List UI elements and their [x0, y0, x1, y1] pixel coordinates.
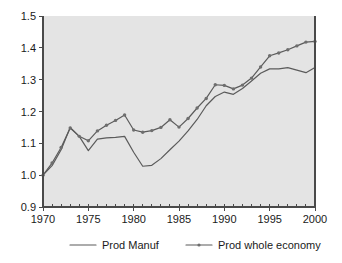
series-marker-1 — [214, 83, 217, 86]
series-marker-1 — [123, 113, 126, 116]
y-tick-label: 1.1 — [21, 137, 36, 149]
productivity-line-chart: 0.91.01.11.21.31.41.5 197019751980198519… — [0, 0, 342, 263]
x-tick-label: 1995 — [257, 213, 281, 225]
y-tick-label: 1.5 — [21, 10, 36, 22]
series-marker-1 — [150, 129, 153, 132]
series-marker-1 — [168, 118, 171, 121]
y-tick-label: 1.4 — [21, 42, 36, 54]
series-marker-1 — [250, 76, 253, 79]
series-marker-1 — [186, 117, 189, 120]
series-marker-1 — [195, 106, 198, 109]
series-marker-1 — [223, 84, 226, 87]
series-marker-1 — [69, 126, 72, 129]
series-marker-1 — [304, 40, 307, 43]
series-marker-1 — [259, 65, 262, 68]
legend-label-prod-whole-economy: Prod whole economy — [218, 239, 321, 251]
series-marker-1 — [277, 51, 280, 54]
series-marker-1 — [141, 130, 144, 133]
x-tick-label: 1980 — [121, 213, 145, 225]
legend-label-prod-manuf: Prod Manuf — [102, 239, 160, 251]
plot-area-background — [43, 16, 315, 207]
series-marker-1 — [50, 161, 53, 164]
series-marker-1 — [87, 139, 90, 142]
series-marker-1 — [96, 129, 99, 132]
x-tick-label: 1970 — [31, 213, 55, 225]
y-tick-label: 0.9 — [21, 201, 36, 213]
series-marker-1 — [232, 87, 235, 90]
x-tick-label: 1990 — [212, 213, 236, 225]
series-marker-1 — [205, 97, 208, 100]
y-tick-label: 1.3 — [21, 74, 36, 86]
series-marker-1 — [177, 125, 180, 128]
series-marker-1 — [59, 146, 62, 149]
x-tick-label: 1975 — [76, 213, 100, 225]
series-marker-1 — [295, 44, 298, 47]
series-marker-1 — [159, 126, 162, 129]
series-marker-1 — [241, 83, 244, 86]
x-tick-label: 2000 — [303, 213, 327, 225]
x-tick-label: 1985 — [167, 213, 191, 225]
y-tick-label: 1.2 — [21, 106, 36, 118]
series-marker-1 — [114, 119, 117, 122]
series-marker-1 — [78, 135, 81, 138]
series-marker-1 — [268, 54, 271, 57]
y-tick-label: 1.0 — [21, 169, 36, 181]
series-marker-1 — [286, 48, 289, 51]
legend-marker-prod-whole-economy — [197, 243, 200, 246]
series-marker-1 — [132, 128, 135, 131]
series-marker-1 — [105, 123, 108, 126]
